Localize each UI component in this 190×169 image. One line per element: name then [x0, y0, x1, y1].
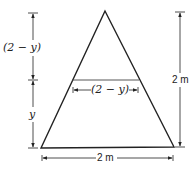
triangle [41, 11, 174, 148]
chord-width-label: (2 − y) [91, 84, 129, 96]
base-width-label: 2 m [97, 152, 114, 164]
upper-height-label: (2 − y) [3, 42, 41, 54]
total-height-label: 2 m [172, 74, 189, 86]
lower-height-label: y [29, 109, 35, 121]
